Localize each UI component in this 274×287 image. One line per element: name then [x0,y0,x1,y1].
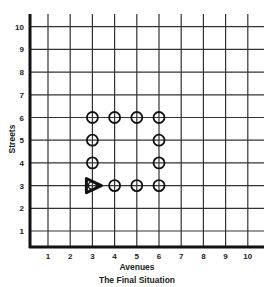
y-tick-label: 9 [20,45,25,54]
x-tick-label: 2 [68,252,73,261]
y-axis-title: Streets [7,124,17,153]
x-tick-label: 4 [112,252,117,261]
x-tick-label: 7 [179,252,184,261]
y-tick-label: 8 [20,68,25,77]
diagram-title: The Final Situation [99,275,175,285]
y-tick-label: 6 [20,114,25,123]
x-axis-title: Avenues [119,262,154,272]
x-tick-label: 9 [223,252,228,261]
grid-diagram: 12345678910 12345678910 Avenues The Fina… [0,0,274,287]
x-tick-label: 10 [243,252,252,261]
y-tick-label: 3 [20,182,25,191]
y-tick-label: 10 [15,23,24,32]
y-tick-label: 7 [20,91,25,100]
y-tick-label: 5 [20,136,25,145]
y-tick-label: 1 [20,227,25,236]
x-tick-label: 1 [46,252,51,261]
y-tick-label: 4 [20,159,25,168]
x-tick-label: 5 [135,252,140,261]
grid-lines [30,14,264,247]
x-tick-label: 3 [90,252,95,261]
y-tick-label: 2 [20,204,25,213]
x-tick-label: 6 [157,252,162,261]
markers [86,112,164,193]
x-tick-label: 8 [201,252,206,261]
x-axis-ticks: 12345678910 [46,252,253,261]
